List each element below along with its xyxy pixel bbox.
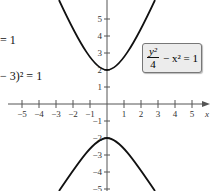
svg-text:−4: −4	[34, 109, 44, 119]
x-axis-arrow-icon	[202, 101, 210, 107]
svg-text:5: 5	[98, 14, 103, 24]
svg-text:−1: −1	[92, 116, 102, 126]
svg-text:4: 4	[98, 31, 103, 41]
left-equation-1: = 1	[0, 33, 16, 48]
svg-text:5: 5	[190, 109, 195, 119]
svg-text:3: 3	[98, 48, 103, 58]
numerator: y²	[147, 46, 159, 58]
svg-text:4: 4	[173, 109, 178, 119]
hyperbola-graph: −5 −4 −3 −2 −1 1 2 3 4 5 x 5 4 3 2 1 −1 …	[0, 0, 210, 191]
equation-rest: − x² = 1	[163, 52, 198, 64]
svg-text:−5: −5	[17, 109, 27, 119]
svg-text:2: 2	[139, 109, 144, 119]
x-tick-labels: −5 −4 −3 −2 −1 1 2 3 4 5 x	[17, 109, 209, 119]
svg-text:−3: −3	[92, 150, 102, 160]
left-equation-2: − 3)² = 1	[0, 69, 42, 84]
svg-text:−3: −3	[51, 109, 61, 119]
svg-text:3: 3	[156, 109, 161, 119]
svg-text:1: 1	[122, 109, 127, 119]
fraction: y² 4	[147, 46, 159, 70]
equation-box: y² 4 − x² = 1	[142, 43, 202, 73]
svg-text:x: x	[204, 109, 209, 119]
y-tick-labels: 5 4 3 2 1 −1 −2 −3 −4 −5	[92, 14, 102, 191]
svg-text:−2: −2	[68, 109, 78, 119]
denominator: 4	[147, 58, 159, 70]
svg-text:−4: −4	[92, 167, 102, 177]
svg-text:−5: −5	[92, 184, 102, 191]
svg-text:1: 1	[98, 82, 103, 92]
